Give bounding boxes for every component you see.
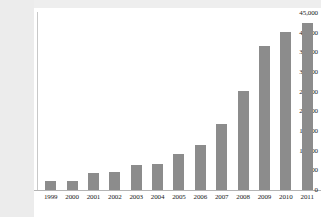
bar-slot: [104, 8, 125, 190]
bar: [109, 172, 120, 190]
bar-slot: [297, 8, 318, 190]
x-tick-label: 2007: [211, 193, 232, 202]
bar-slot: [168, 8, 189, 190]
bar-slot: [275, 8, 296, 190]
x-tick-label: 2001: [83, 193, 104, 202]
x-tick-label: 2003: [126, 193, 147, 202]
bar: [88, 173, 99, 190]
bar: [152, 164, 163, 190]
bar: [195, 145, 206, 190]
bar-slot: [147, 8, 168, 190]
x-tick-label: 2004: [147, 193, 168, 202]
bar-series: [40, 8, 318, 190]
bar: [238, 91, 249, 191]
x-tick-label: 2009: [254, 193, 275, 202]
bar: [173, 154, 184, 190]
bar-chart: 45,00040,00035,00030,00025,00020,00015,0…: [0, 0, 321, 217]
x-tick-label: 2006: [190, 193, 211, 202]
x-tick-label: 2010: [275, 193, 296, 202]
bar-slot: [254, 8, 275, 190]
bar-slot: [233, 8, 254, 190]
bar-slot: [190, 8, 211, 190]
bar: [302, 23, 313, 190]
x-tick-label: 2000: [62, 193, 83, 202]
bar-slot: [126, 8, 147, 190]
bar: [259, 46, 270, 190]
x-tick-label: 2002: [104, 193, 125, 202]
x-tick-label: 2008: [233, 193, 254, 202]
bar-slot: [62, 8, 83, 190]
x-axis-ticks: 1999200020012002200320042005200620072008…: [40, 193, 318, 202]
y-axis-line: [37, 12, 38, 191]
bar-slot: [40, 8, 61, 190]
x-tick-label: 2005: [168, 193, 189, 202]
bar-slot: [83, 8, 104, 190]
bar: [131, 165, 142, 190]
x-tick-label: 1999: [40, 193, 61, 202]
chart-top-band: [34, 0, 321, 8]
bar: [67, 181, 78, 190]
bar-slot: [211, 8, 232, 190]
x-tick-label: 2011: [297, 193, 318, 202]
bar: [216, 124, 227, 190]
bar: [45, 181, 56, 190]
x-axis-line: [34, 190, 321, 191]
y-axis-label-band: [0, 0, 34, 217]
bar: [280, 32, 291, 190]
